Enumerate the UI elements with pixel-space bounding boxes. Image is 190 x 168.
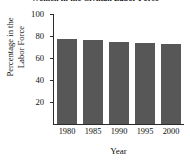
x-tick-label-1980: 1980 [59,127,76,136]
y-tick-label-80: 80 [35,31,44,41]
bar-1990 [109,42,130,125]
y-tick-label-20: 20 [35,97,44,107]
y-axis-title-line-2: Labor Force [16,0,27,99]
plot-area: 20406080100 19801985199019952000 [53,14,184,125]
y-axis-title-line-1: Percentage in the [5,0,16,99]
x-axis-line [53,124,184,125]
x-axis-title: Year [53,146,184,156]
bar-1980 [57,39,78,124]
bar-1995 [135,43,156,124]
x-tick-label-1990: 1990 [111,127,128,136]
x-tick-label-1985: 1985 [85,127,102,136]
bar-series [54,14,184,124]
y-tick-label-60: 60 [35,53,44,63]
y-axis-title: Percentage in the Labor Force [5,0,31,99]
bar-1985 [83,40,104,124]
chart-figure: Women in the Civilian Labor Force Percen… [0,0,190,168]
x-tick-label-1995: 1995 [137,127,154,136]
x-tick-label-2000: 2000 [163,127,180,136]
bar-2000 [161,44,182,124]
y-tick-label-40: 40 [35,75,44,85]
y-tick-label-100: 100 [31,9,44,19]
